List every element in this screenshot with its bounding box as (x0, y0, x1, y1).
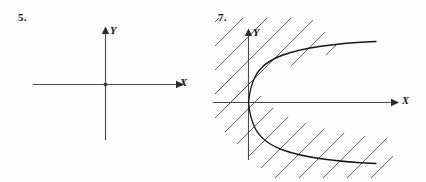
figure-page: 5. X Y 7. (0, 0, 426, 182)
y-axis-arrowhead (245, 29, 252, 37)
figure-7-y-axis-label: Y (253, 27, 259, 38)
figure-7-x-axis-label: X (402, 95, 409, 106)
figure-7: 7. (213, 0, 426, 182)
y-axis-arrowhead (102, 27, 109, 35)
figure-5-y-axis-label: Y (110, 25, 116, 36)
figure-5: 5. X Y (0, 0, 213, 182)
figure-5-x-axis-label: X (180, 77, 187, 88)
x-axis-arrowhead (391, 99, 399, 106)
curve-upper-branch (249, 42, 377, 103)
figure-7-plot (213, 0, 426, 182)
origin-point (104, 83, 108, 87)
curve-lower-branch (249, 103, 377, 164)
figure-5-plot (0, 0, 213, 182)
